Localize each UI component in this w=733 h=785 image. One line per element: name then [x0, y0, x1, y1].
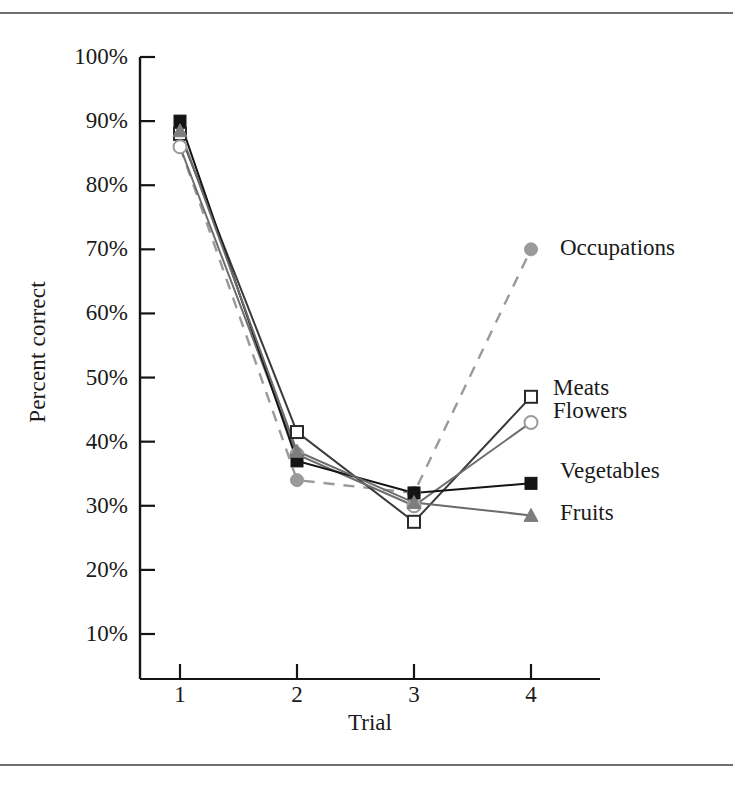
data-point-marker [291, 474, 304, 487]
x-axis-tick-label: 4 [511, 682, 551, 708]
y-axis-tick-label: 60% [50, 301, 128, 324]
data-point-marker [408, 516, 420, 528]
series-label-fruits: Fruits [560, 501, 614, 524]
x-axis-ticks [180, 664, 531, 679]
y-axis-tick-label: 10% [50, 622, 128, 645]
y-axis-tick-label: 80% [50, 173, 128, 196]
data-point-marker [291, 426, 303, 438]
data-point-marker [525, 416, 538, 429]
series-label-flowers: Flowers [553, 399, 627, 422]
line-chart: Percent correct 100%90%80%70%60%50%40%30… [0, 14, 733, 762]
series-label-vegetables: Vegetables [560, 459, 660, 482]
series-lines [180, 121, 531, 522]
y-axis-tick-label: 100% [50, 45, 128, 68]
y-axis-tick-label: 90% [50, 109, 128, 132]
data-point-marker [525, 391, 537, 403]
y-axis-tick-label: 40% [50, 430, 128, 453]
x-axis-tick-label: 2 [277, 682, 317, 708]
y-axis-ticks [140, 57, 155, 634]
series-label-occupations: Occupations [560, 236, 675, 259]
x-axis-title: Trial [250, 710, 490, 736]
y-axis-tick-label: 30% [50, 494, 128, 517]
data-point-marker [174, 140, 187, 153]
series-markers [173, 115, 538, 528]
figure-container: Percent correct 100%90%80%70%60%50%40%30… [0, 14, 733, 762]
series-line-vegetables [180, 121, 531, 493]
y-axis-tick-label: 20% [50, 558, 128, 581]
y-axis-tick-label: 50% [50, 366, 128, 389]
series-line-fruits [180, 131, 531, 516]
page-rule-bottom [0, 764, 733, 766]
data-point-marker [525, 243, 538, 256]
x-axis-tick-label: 3 [394, 682, 434, 708]
y-axis-tick-labels: 100%90%80%70%60%50%40%30%20%10% [48, 14, 128, 714]
y-axis-tick-label: 70% [50, 237, 128, 260]
data-point-marker [525, 477, 537, 489]
series-label-meats: Meats [553, 376, 609, 399]
series-line-occupations [180, 147, 531, 493]
x-axis-tick-label: 1 [160, 682, 200, 708]
series-line-meats [180, 134, 531, 522]
